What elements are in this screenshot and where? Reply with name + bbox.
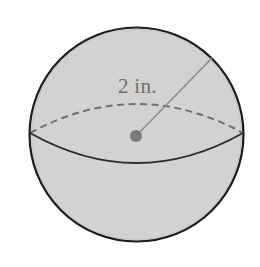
sphere-diagram-canvas: 2 in.	[0, 0, 260, 267]
radius-measurement-label: 2 in.	[118, 74, 157, 98]
sphere-figure: 2 in.	[0, 0, 260, 267]
center-dot	[130, 130, 142, 142]
